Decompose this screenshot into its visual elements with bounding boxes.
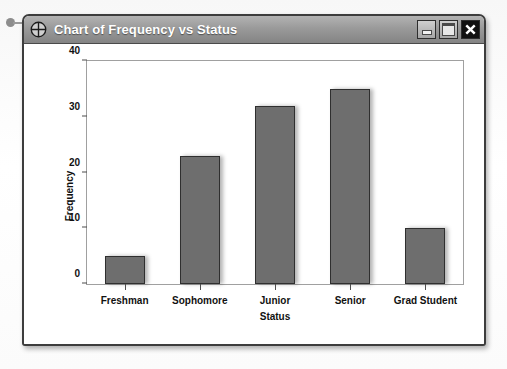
x-tick-mark [425, 284, 426, 290]
close-button[interactable] [461, 20, 480, 39]
x-tick-label: Freshman [101, 295, 149, 306]
y-tick-label: 0 [74, 268, 80, 279]
bar-slot: Sophomore [162, 61, 237, 284]
bar-series: FreshmanSophomoreJuniorSeniorGrad Studen… [87, 61, 463, 284]
x-tick-mark [125, 284, 126, 290]
chart-surface: Frequency 010203040 FreshmanSophomoreJun… [30, 50, 478, 341]
bar-slot: Grad Student [388, 61, 463, 284]
y-tick-label: 20 [69, 156, 80, 167]
y-tick-label: 40 [69, 45, 80, 56]
plot-area: 010203040 FreshmanSophomoreJuniorSeniorG… [86, 60, 464, 285]
x-tick-label: Junior [260, 295, 291, 306]
bar[interactable] [330, 89, 370, 284]
y-tick-label: 10 [69, 212, 80, 223]
maximize-button[interactable] [439, 20, 458, 39]
x-tick-mark [350, 284, 351, 290]
minimize-icon [422, 30, 432, 35]
x-axis-label: Status [260, 311, 291, 322]
chart-window: Chart of Frequency vs Status Frequency 0… [22, 14, 486, 346]
crosshair-icon [30, 21, 47, 38]
bar[interactable] [180, 156, 220, 284]
maximize-icon [442, 23, 455, 36]
bar-slot: Junior [237, 61, 312, 284]
bar-slot: Freshman [87, 61, 162, 284]
x-tick-mark [200, 284, 201, 290]
x-tick-label: Grad Student [394, 295, 457, 306]
window-titlebar[interactable]: Chart of Frequency vs Status [24, 16, 484, 44]
minimize-button[interactable] [417, 20, 436, 39]
bar[interactable] [255, 106, 295, 284]
bar-slot: Senior [313, 61, 388, 284]
bar[interactable] [105, 256, 145, 284]
bar[interactable] [405, 228, 445, 284]
window-title: Chart of Frequency vs Status [54, 22, 414, 37]
close-icon [463, 22, 478, 37]
chart-client-area: Frequency 010203040 FreshmanSophomoreJun… [24, 44, 484, 346]
x-tick-label: Sophomore [172, 295, 228, 306]
x-tick-label: Senior [335, 295, 366, 306]
x-tick-mark [275, 284, 276, 290]
y-tick-label: 30 [69, 100, 80, 111]
